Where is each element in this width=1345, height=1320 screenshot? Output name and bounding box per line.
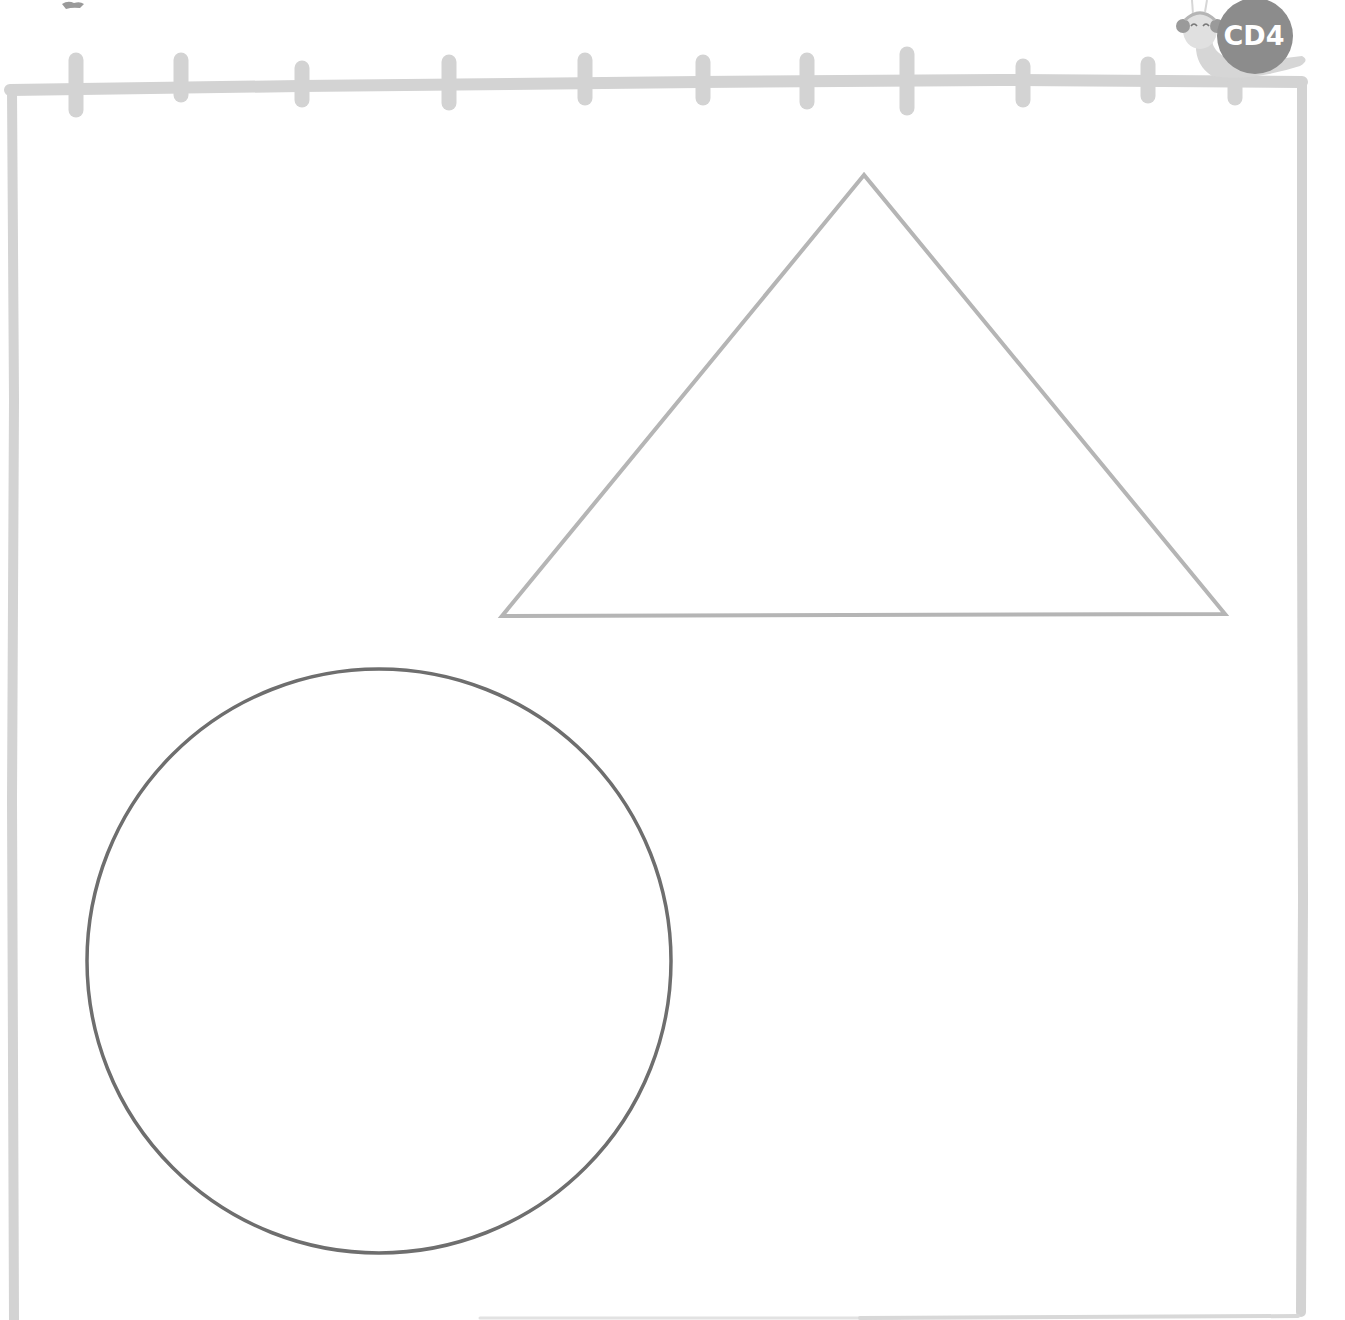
circle-shape [87,669,671,1253]
snail-mascot-icon [1176,0,1306,78]
badge-shell [1217,0,1293,74]
scribble-mark [62,2,84,9]
notebook-frame [10,80,1303,1320]
triangle-shape [502,175,1225,616]
worksheet-canvas [0,0,1345,1320]
